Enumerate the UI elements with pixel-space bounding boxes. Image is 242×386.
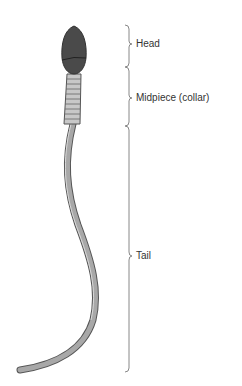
midpiece-shape [64,74,81,124]
label-braces [125,25,132,372]
midpiece-label: Midpiece (collar) [136,92,209,103]
midpiece-brace [125,67,132,126]
sperm-diagram [0,0,242,386]
head-shape [62,26,86,74]
tail-brace [125,126,132,372]
tail-shape [20,124,96,370]
tail-label: Tail [136,250,151,261]
head-brace [125,25,132,67]
head-label: Head [136,38,160,49]
